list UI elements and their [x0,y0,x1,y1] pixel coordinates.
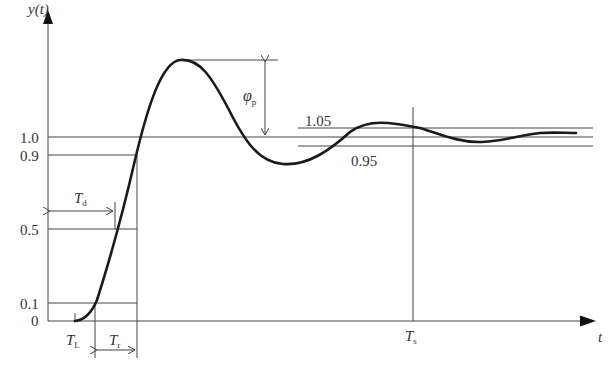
tick-label-0.5: 0.5 [20,222,39,238]
delay-time-subscript: d [82,198,87,208]
overshoot-symbol: φ [243,87,252,105]
settling-time-subscript: s [413,336,417,346]
overshoot-label: φp [243,87,257,107]
rise-time-subscript: r [117,340,120,350]
axes [43,10,596,327]
y-axis-label: y(t) [26,1,49,18]
step-response-diagram: y(t) t 1.0 0.9 0.5 0.1 0 1.05 0.95 φp Td… [0,0,612,377]
x-axis-label: t [598,329,603,345]
x-axis-arrow-icon [580,316,596,327]
lag-time-label: TL [66,332,80,350]
response-curve [75,60,576,321]
rise-time-label: Tr [109,332,120,350]
overshoot-subscript: p [252,97,257,107]
tick-label-0.9: 0.9 [20,148,39,164]
tolerance-upper-label: 1.05 [305,113,331,129]
delay-time-label: Td [74,190,87,208]
settling-time-label: Ts [405,328,417,346]
tick-label-1.0: 1.0 [20,130,39,146]
vertical-guides [75,107,413,358]
lag-time-subscript: L [74,340,80,350]
tick-label-0.1: 0.1 [20,296,39,312]
tick-label-0: 0 [31,313,39,329]
tolerance-lower-label: 0.95 [351,153,377,169]
